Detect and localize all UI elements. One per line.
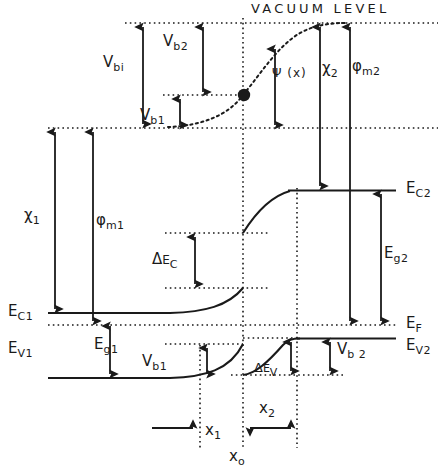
delta-ec-label-e: E — [162, 253, 170, 267]
ef-level-label: EF — [406, 315, 422, 334]
vb2-lower-label-base: V — [337, 340, 347, 358]
delta-ev-label-e: E — [263, 362, 270, 375]
x0-axis-label-base: x — [229, 447, 238, 465]
vb1-lower-label-base: V — [142, 352, 152, 370]
vbi-label: Vbi — [103, 54, 124, 73]
vb2-lower-label-sub: b 2 — [347, 348, 366, 361]
vbi-label-base: V — [103, 53, 113, 71]
ev2-level-label: EV2 — [406, 337, 431, 356]
phim2-label: φm2 — [352, 58, 381, 77]
psi-label: Ψ (x) — [272, 64, 307, 80]
x1-axis-label-sub: 1 — [214, 429, 222, 442]
vacuum-level-title: VACUUM LEVEL — [251, 2, 389, 15]
ev1-level-label: EV1 — [8, 340, 33, 359]
chi1-label: χ1 — [24, 207, 40, 226]
eg1-label-sub: g1 — [103, 343, 118, 356]
x0-axis-label: xo — [229, 448, 245, 467]
x0-axis-label-sub: o — [238, 455, 245, 468]
chi2-label: χ2 — [322, 60, 338, 79]
band-diagram-figure: VACUUM LEVEL Vbi Vb2 Vb1 Ψ (x) χ2 φm2 χ1… — [0, 0, 440, 470]
ec2-level-label-sub: C2 — [415, 187, 431, 200]
delta-ev-label: ΔEV — [254, 359, 278, 378]
x2-axis-label-sub: 2 — [268, 407, 276, 420]
ef-level-label-sub: F — [415, 322, 422, 335]
vb2-top-label: Vb2 — [163, 33, 188, 52]
ec2-level-label: EC2 — [406, 180, 431, 199]
phim1-label-base: φ — [96, 211, 106, 229]
ev1-level-label-sub: V1 — [17, 347, 33, 360]
vacuum-level-title-text: VACUUM LEVEL — [251, 1, 389, 16]
chi1-label-base: χ — [24, 206, 33, 224]
chi2-label-sub: 2 — [331, 67, 339, 80]
ec1-bending-curve — [170, 288, 243, 313]
delta-ec-label-delta: Δ — [152, 250, 162, 268]
vb1-top-label: Vb1 — [140, 107, 165, 126]
psi-label-text: Ψ (x) — [272, 66, 307, 80]
eg2-label-sub: g2 — [393, 252, 408, 265]
vb1-top-label-base: V — [140, 106, 150, 124]
delta-ev-label-delta: Δ — [254, 360, 263, 375]
ec2-bending-curve — [243, 191, 290, 233]
eg1-label: Eg1 — [94, 336, 118, 355]
vb1-lower-label-sub: b1 — [152, 360, 167, 373]
junction-dot — [238, 89, 250, 101]
x2-axis-label: x2 — [259, 400, 275, 419]
phim2-label-base: φ — [352, 57, 362, 75]
vbi-label-sub: bi — [113, 61, 124, 74]
vb1-lower-label: Vb1 — [142, 353, 167, 372]
ev2-level-label-sub: V2 — [415, 344, 431, 357]
delta-ec-label-sub: C — [170, 258, 178, 271]
ec1-level-label: EC1 — [8, 303, 33, 322]
phim1-label-sub: m1 — [106, 219, 125, 232]
delta-ev-label-sub: V — [270, 366, 278, 379]
vb2-lower-label: Vb 2 — [337, 341, 366, 360]
x1-axis-label-base: x — [205, 421, 214, 439]
chi2-label-base: χ — [322, 59, 331, 77]
x2-axis-label-base: x — [259, 399, 268, 417]
junction-point — [238, 89, 250, 101]
ec1-level-label-sub: C1 — [17, 310, 33, 323]
vb2-top-label-sub: b2 — [173, 40, 188, 53]
phim1-label: φm1 — [96, 212, 125, 231]
vb1-top-label-sub: b1 — [150, 114, 165, 127]
x1-axis-label: x1 — [205, 422, 221, 441]
eg2-label: Eg2 — [384, 245, 408, 264]
phim2-label-sub: m2 — [362, 65, 381, 78]
chi1-label-sub: 1 — [33, 214, 41, 227]
delta-ec-label: ΔEC — [152, 251, 178, 270]
vb2-top-label-base: V — [163, 32, 173, 50]
